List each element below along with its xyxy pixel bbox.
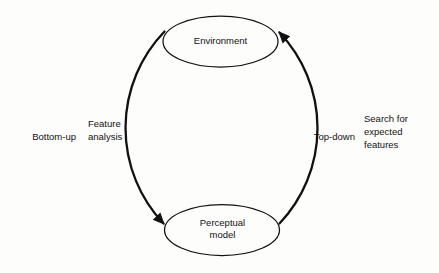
feature-analysis-label: Feature analysis xyxy=(88,117,148,143)
bottom-up-label: Bottom-up xyxy=(5,130,76,143)
top-down-label: Top-down xyxy=(293,130,355,143)
right-arc-path xyxy=(280,33,318,224)
environment-node-shape xyxy=(163,16,278,67)
perceptual-model-node-shape xyxy=(165,205,280,256)
diagram-canvas: Environment Perceptual model Bottom-up F… xyxy=(0,0,439,273)
search-expected-features-label: Search for expected features xyxy=(364,112,436,151)
